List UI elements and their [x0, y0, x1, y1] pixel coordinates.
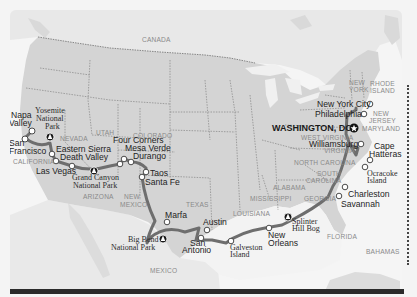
label-georgia: GEORGIA — [304, 195, 337, 202]
label-new-jersey-1: NEW — [373, 110, 390, 117]
label-san-francisco-2: Francisco — [10, 146, 46, 156]
label-south-carolina-2: CAROLINA — [306, 177, 342, 184]
stop-williamsburg[interactable] — [358, 141, 364, 147]
label-ocracoke-2: Island — [367, 176, 387, 185]
label-las-vegas: Las Vegas — [36, 166, 76, 176]
label-marfa: Marfa — [165, 210, 187, 220]
label-new-orleans-2: Orleans — [268, 238, 298, 248]
label-savannah: Savannah — [341, 199, 380, 209]
label-durango: Durango — [133, 151, 166, 161]
label-alabama: ALABAMA — [273, 184, 306, 191]
label-new-york-city: New York City — [317, 99, 371, 109]
label-canada: CANADA — [142, 36, 171, 43]
label-santa-fe: Santa Fe — [145, 177, 180, 187]
side-gutter-text — [407, 85, 413, 265]
label-cape-hatteras-2: Hatteras — [369, 149, 401, 159]
label-austin: Austin — [203, 217, 227, 227]
label-rhode-island-1: RHODE — [370, 80, 395, 87]
park-big-bend[interactable] — [159, 235, 167, 243]
label-new-mexico-1: NEW — [124, 193, 141, 200]
route-map[interactable]: CANADA MEXICO BAHAMAS NEVADA UTAH COLORA… — [10, 10, 402, 291]
stop-austin[interactable] — [204, 227, 210, 233]
park-splinter-hill-bog[interactable] — [284, 213, 292, 221]
stop-eastern-sierra[interactable] — [49, 151, 55, 157]
stop-taos[interactable] — [143, 169, 149, 175]
label-texas: TEXAS — [186, 201, 209, 208]
label-death-valley: Death Valley — [60, 152, 109, 162]
label-bahamas: BAHAMAS — [366, 248, 400, 255]
label-big-bend-2: National Park — [111, 243, 155, 252]
label-napa-valley-2: Valley — [10, 118, 32, 128]
bottom-rule — [10, 289, 404, 294]
label-arizona: ARIZONA — [83, 193, 114, 200]
label-washington-dc: WASHINGTON, DC — [272, 123, 352, 133]
stop-charleston[interactable] — [342, 184, 348, 190]
label-san-antonio-2: Antonio — [182, 245, 211, 255]
label-louisiana: LOUISIANA — [233, 210, 270, 217]
label-utah: UTAH — [96, 129, 114, 136]
stop-napa-valley[interactable] — [29, 128, 35, 134]
label-california: CALIFORNIA — [13, 158, 55, 165]
label-splinter-hill-bog-2: Hill Bog — [292, 224, 320, 233]
label-grand-canyon-2: National Park — [73, 181, 117, 190]
label-nevada: NEVADA — [60, 135, 88, 142]
map-frame: CANADA MEXICO BAHAMAS NEVADA UTAH COLORA… — [10, 10, 402, 291]
label-new-york-1: NEW — [349, 79, 366, 86]
label-rhode-island-2: ISLAND — [370, 87, 395, 94]
stop-philadelphia[interactable] — [361, 111, 367, 117]
label-new-york-2: YORK — [349, 86, 369, 93]
label-galveston-2: Island — [230, 250, 250, 259]
label-mexico: MEXICO — [150, 267, 177, 274]
stop-four-corners[interactable] — [117, 161, 123, 167]
label-florida: FLORIDA — [327, 233, 357, 240]
label-new-mexico-2: MEXICO — [120, 201, 147, 208]
stop-savannah[interactable] — [336, 193, 342, 199]
label-south-carolina-1: SOUTH — [317, 170, 341, 177]
stop-santa-fe[interactable] — [139, 174, 145, 180]
label-new-jersey-2: JERSEY — [369, 117, 396, 124]
label-yosemite-3: Park — [45, 122, 60, 131]
label-williamsburg: Williamsburg — [309, 139, 358, 149]
label-philadelphia: Philadelphia — [315, 109, 362, 119]
label-north-carolina: NORTH CAROLINA — [294, 159, 356, 166]
park-yosemite[interactable] — [46, 133, 54, 141]
label-charleston: Charleston — [348, 189, 390, 199]
label-mississippi: MISSISSIPPI — [250, 195, 291, 202]
stop-marfa[interactable] — [164, 219, 170, 225]
label-maryland: MARYLAND — [362, 125, 400, 132]
stop-mesa-verde[interactable] — [121, 156, 127, 162]
